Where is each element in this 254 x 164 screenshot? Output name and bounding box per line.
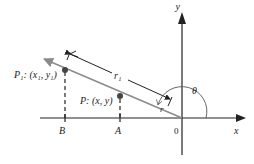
origin-label: 0 bbox=[174, 126, 179, 136]
y-axis-label: y bbox=[175, 1, 181, 12]
point-p-label: P: (x, y) bbox=[79, 95, 113, 107]
x-axis-arrow-icon bbox=[236, 114, 246, 122]
theta-label: θ bbox=[192, 85, 197, 96]
point-b-label: B bbox=[59, 125, 65, 136]
polar-coordinate-diagram: y x 0 B A P₁: (x₁, y₁) P: (x, y) r₁ r θ bbox=[0, 0, 254, 164]
point-p1-label: P₁: (x₁, y₁) bbox=[13, 69, 58, 81]
x-axis bbox=[40, 114, 246, 122]
point-p bbox=[117, 93, 123, 99]
r1-label: r₁ bbox=[114, 70, 121, 81]
y-axis-arrow-icon bbox=[178, 12, 186, 24]
point-a-label: A bbox=[114, 125, 122, 136]
point-p1 bbox=[62, 67, 68, 73]
x-axis-label: x bbox=[233, 125, 239, 136]
y-axis bbox=[178, 12, 186, 155]
r-label: r bbox=[160, 104, 164, 114]
